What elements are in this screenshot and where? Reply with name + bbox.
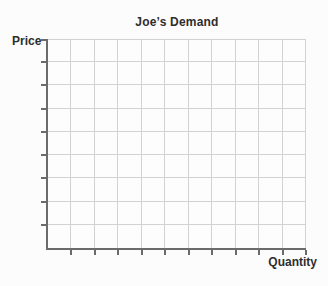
demand-chart-figure: Joe’s Demand Price Quantity <box>0 0 328 286</box>
x-axis-tick <box>94 250 96 255</box>
y-axis-tick <box>41 39 46 41</box>
x-axis-tick <box>188 250 190 255</box>
x-axis-tick <box>211 250 213 255</box>
x-axis-tick <box>235 250 237 255</box>
y-axis-tick <box>41 61 46 63</box>
x-axis-tick <box>117 250 119 255</box>
x-axis-tick <box>141 250 143 255</box>
y-axis-tick <box>41 201 46 203</box>
tick-layer <box>0 0 328 286</box>
x-axis-tick <box>258 250 260 255</box>
x-axis-tick <box>164 250 166 255</box>
x-axis-label: Quantity <box>268 255 317 269</box>
y-axis-tick <box>41 131 46 133</box>
x-axis-tick <box>70 250 72 255</box>
y-axis-tick <box>41 154 46 156</box>
y-axis-tick <box>41 84 46 86</box>
y-axis-tick <box>41 108 46 110</box>
y-axis-tick <box>41 224 46 226</box>
y-axis-tick <box>41 177 46 179</box>
